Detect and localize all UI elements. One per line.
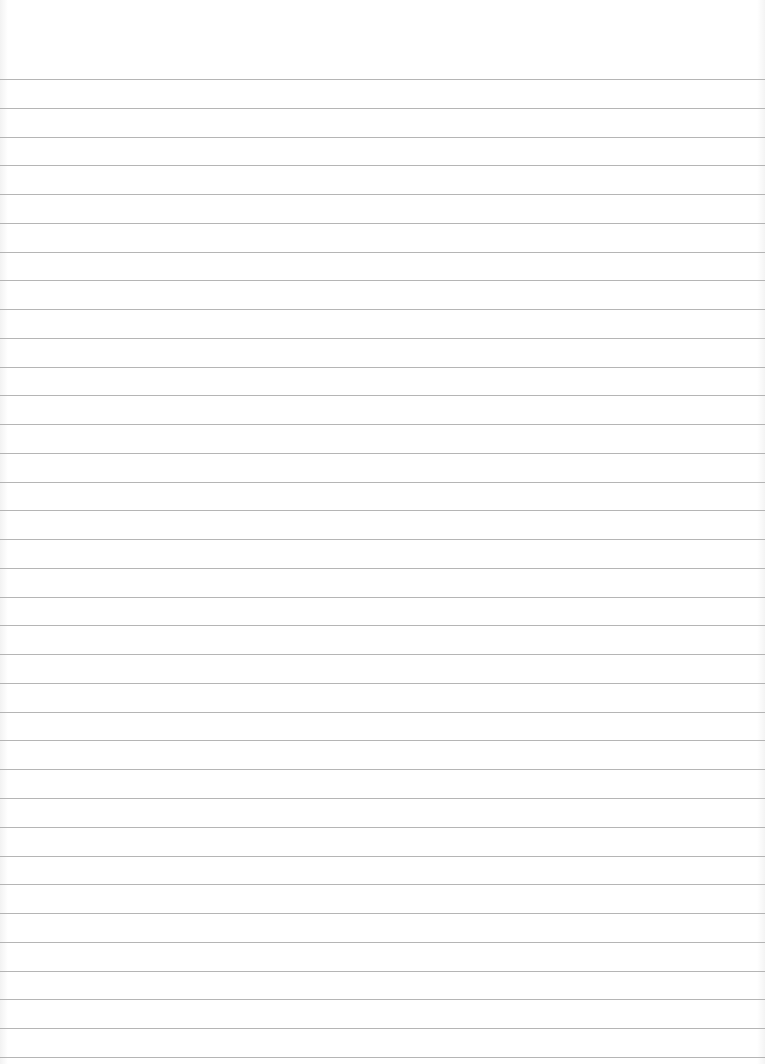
ruled-line xyxy=(0,913,765,914)
ruled-line xyxy=(0,424,765,425)
ruled-line xyxy=(0,79,765,80)
ruled-line xyxy=(0,884,765,885)
ruled-line xyxy=(0,510,765,511)
ruled-line xyxy=(0,856,765,857)
ruled-line xyxy=(0,827,765,828)
ruled-line xyxy=(0,539,765,540)
ruled-line xyxy=(0,798,765,799)
ruled-line xyxy=(0,252,765,253)
ruled-line xyxy=(0,108,765,109)
ruled-line xyxy=(0,165,765,166)
ruled-line xyxy=(0,942,765,943)
ruled-line xyxy=(0,482,765,483)
ruled-line xyxy=(0,137,765,138)
ruled-line xyxy=(0,712,765,713)
ruled-line xyxy=(0,223,765,224)
ruled-line xyxy=(0,453,765,454)
lined-paper-sheet xyxy=(0,0,765,1064)
ruled-line xyxy=(0,597,765,598)
ruled-line xyxy=(0,683,765,684)
ruled-line xyxy=(0,367,765,368)
ruled-line xyxy=(0,740,765,741)
ruled-line xyxy=(0,1057,765,1058)
ruled-line xyxy=(0,625,765,626)
ruled-line xyxy=(0,971,765,972)
ruled-line xyxy=(0,999,765,1000)
ruled-line xyxy=(0,280,765,281)
ruled-line xyxy=(0,338,765,339)
ruled-line xyxy=(0,395,765,396)
ruled-line xyxy=(0,654,765,655)
ruled-line xyxy=(0,1028,765,1029)
ruled-line xyxy=(0,309,765,310)
ruled-line xyxy=(0,769,765,770)
ruled-line xyxy=(0,568,765,569)
ruled-line xyxy=(0,194,765,195)
